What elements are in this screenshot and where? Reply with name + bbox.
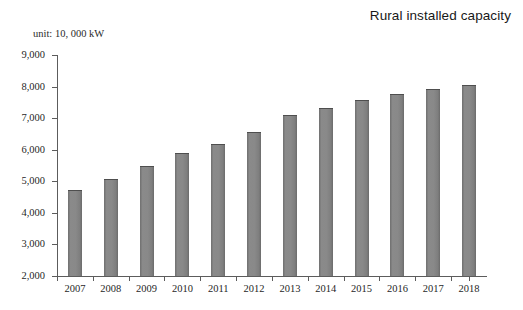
x-axis-tick-label: 2008 bbox=[91, 283, 131, 294]
x-axis-tick bbox=[129, 277, 130, 281]
bar bbox=[355, 100, 369, 276]
bar-chart: Rural installed capacity unit: 10, 000 k… bbox=[0, 0, 523, 310]
bar bbox=[104, 179, 118, 276]
x-axis-tick-label: 2009 bbox=[127, 283, 167, 294]
bar bbox=[211, 144, 225, 276]
y-axis-tick: 7,000 bbox=[52, 118, 57, 119]
x-axis-tick-label: 2016 bbox=[377, 283, 417, 294]
x-axis-tick bbox=[451, 277, 452, 281]
y-axis-tick-label: 7,000 bbox=[21, 111, 45, 124]
y-axis-tick: 8,000 bbox=[52, 87, 57, 88]
chart-title: Rural installed capacity bbox=[370, 8, 511, 23]
x-axis-tick bbox=[308, 277, 309, 281]
x-axis-tick bbox=[272, 277, 273, 281]
bar bbox=[175, 153, 189, 276]
y-axis-tick: 5,000 bbox=[52, 181, 57, 182]
x-axis-tick-label: 2015 bbox=[342, 283, 382, 294]
x-axis-tick bbox=[415, 277, 416, 281]
x-axis-tick bbox=[164, 277, 165, 281]
bar bbox=[283, 115, 297, 276]
x-axis-tick bbox=[344, 277, 345, 281]
x-axis-tick bbox=[236, 277, 237, 281]
x-axis-tick bbox=[379, 277, 380, 281]
x-axis-tick-label: 2007 bbox=[55, 283, 95, 294]
y-axis-tick-label: 8,000 bbox=[21, 80, 45, 93]
bar bbox=[68, 190, 82, 276]
x-axis-tick-label: 2018 bbox=[449, 283, 489, 294]
x-axis-tick bbox=[57, 277, 58, 281]
x-axis-tick-label: 2010 bbox=[162, 283, 202, 294]
y-axis-tick: 6,000 bbox=[52, 150, 57, 151]
x-axis-tick-label: 2013 bbox=[270, 283, 310, 294]
y-axis-tick: 4,000 bbox=[52, 213, 57, 214]
bar bbox=[390, 94, 404, 276]
y-axis-tick-label: 6,000 bbox=[21, 143, 45, 156]
y-axis-tick-label: 5,000 bbox=[21, 174, 45, 187]
y-axis-tick-label: 4,000 bbox=[21, 206, 45, 219]
y-axis-tick-label: 2,000 bbox=[21, 269, 45, 282]
bar bbox=[319, 108, 333, 276]
x-axis-tick-label: 2012 bbox=[234, 283, 274, 294]
x-axis-tick bbox=[200, 277, 201, 281]
x-axis-tick-label: 2011 bbox=[198, 283, 238, 294]
x-axis-tick-label: 2014 bbox=[306, 283, 346, 294]
unit-label: unit: 10, 000 kW bbox=[33, 28, 104, 39]
bar bbox=[462, 85, 476, 276]
y-axis-line bbox=[57, 55, 58, 277]
y-axis-tick: 3,000 bbox=[52, 244, 57, 245]
bar bbox=[140, 166, 154, 276]
y-axis-tick-label: 3,000 bbox=[21, 237, 45, 250]
y-axis-tick: 9,000 bbox=[52, 55, 57, 56]
x-axis-tick bbox=[93, 277, 94, 281]
y-axis-tick-label: 9,000 bbox=[21, 48, 45, 61]
bar bbox=[426, 89, 440, 276]
plot-area: 2,0003,0004,0005,0006,0007,0008,0009,000… bbox=[57, 55, 487, 277]
x-axis-tick-label: 2017 bbox=[413, 283, 453, 294]
bar bbox=[247, 132, 261, 276]
x-axis-tick bbox=[469, 277, 470, 281]
